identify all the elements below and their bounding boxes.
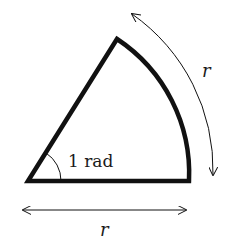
angle-arc [46, 153, 61, 181]
diagram-svg: 1 rad r r [0, 0, 229, 246]
arc-length-label: r [202, 60, 212, 81]
angle-label: 1 rad [68, 151, 113, 171]
radian-diagram: 1 rad r r [0, 0, 229, 246]
radius-label: r [100, 219, 110, 240]
arc-length-arrow [132, 14, 213, 175]
